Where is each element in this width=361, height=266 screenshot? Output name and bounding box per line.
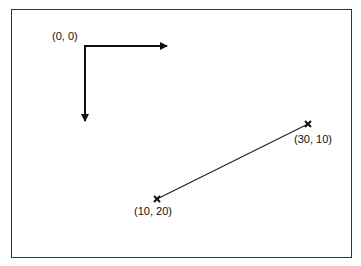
point-marker-start <box>154 196 160 202</box>
point-label-start: (10, 20) <box>134 205 172 217</box>
point-marker-end <box>305 121 311 127</box>
line-segment <box>157 124 308 199</box>
point-label-end: (30, 10) <box>294 133 332 145</box>
coordinate-diagram: (0, 0) (10, 20) (30, 10) <box>0 0 361 266</box>
origin-label: (0, 0) <box>52 30 78 42</box>
